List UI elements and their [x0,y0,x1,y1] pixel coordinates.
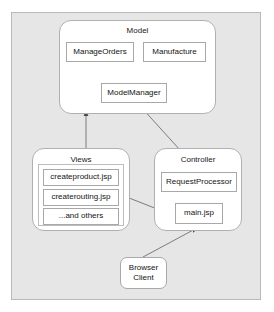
node-request-processor[interactable]: RequestProcessor [161,172,237,192]
node-manage-orders[interactable]: ManageOrders [66,42,134,62]
node-model-manager[interactable]: ModelManager [101,83,167,103]
node-browser-client[interactable]: Browser Client [120,257,167,289]
node-main-jsp[interactable]: main.jsp [175,203,223,224]
package-controller-label: Controller [155,155,241,164]
node-and-others[interactable]: ...and others [43,208,119,225]
node-createproduct-jsp[interactable]: createproduct.jsp [43,169,119,186]
node-manufacture[interactable]: Manufacture [143,42,206,62]
package-model-label: Model [60,26,215,35]
browser-client-line2: Client [133,273,153,283]
node-createrouting-jsp[interactable]: createrouting.jsp [43,189,119,206]
diagram-canvas: Model ManageOrders Manufacture ModelMana… [0,0,274,312]
package-views-label: Views [33,155,129,164]
browser-client-line1: Browser [129,263,158,273]
